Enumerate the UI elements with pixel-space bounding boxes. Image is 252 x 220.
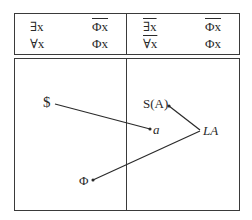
- node-la: LA: [203, 124, 218, 138]
- node-a: a: [153, 123, 160, 137]
- edge-dollar-to-a: [55, 104, 150, 129]
- diagram-edges: [0, 0, 252, 220]
- node-dollar: $: [43, 95, 51, 109]
- node-phi: Φ: [79, 174, 89, 188]
- edge-la-to-phi: [93, 131, 200, 180]
- edge-la-to-s-a: [169, 106, 200, 130]
- node-s-a: S(A): [143, 97, 168, 111]
